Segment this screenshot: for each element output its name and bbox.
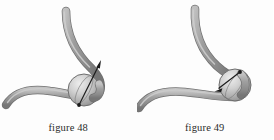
arrow-head-48 bbox=[96, 60, 101, 69]
arrow-tail-dot-48 bbox=[77, 103, 81, 107]
figure-caption-49: figure 49 bbox=[137, 122, 274, 134]
figure-panel-49: figure 49 bbox=[137, 0, 274, 140]
figure-caption-48: figure 48 bbox=[0, 122, 137, 134]
figure-49-illustration bbox=[137, 0, 274, 120]
arrow-head-49 bbox=[214, 88, 222, 92]
figure-panel-48: figure 48 bbox=[0, 0, 137, 140]
upper-tube-49 bbox=[193, 9, 240, 77]
figure-48-illustration bbox=[0, 0, 137, 120]
upper-tube-body-49 bbox=[194, 9, 239, 77]
arrow-tail-dot-49 bbox=[238, 70, 242, 74]
figures-page: figure 48 bbox=[0, 0, 273, 140]
tube-front-overlap-49 bbox=[241, 74, 246, 95]
